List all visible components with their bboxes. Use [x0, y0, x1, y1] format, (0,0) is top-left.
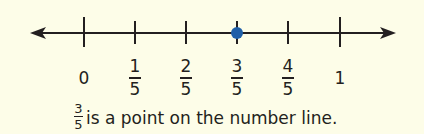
tick-label-2-5: 25 [171, 58, 201, 98]
tick-label-4-5: 45 [273, 58, 303, 98]
caption-fraction: 35 [74, 102, 83, 131]
tick-label-1-5: 15 [120, 58, 150, 98]
tick-label-3-5: 35 [222, 58, 252, 98]
tick-label-1: 1 [325, 70, 355, 87]
point-marker [231, 27, 243, 39]
caption: 35is a point on the number line. [74, 104, 337, 133]
tick-label-0: 0 [69, 70, 99, 87]
